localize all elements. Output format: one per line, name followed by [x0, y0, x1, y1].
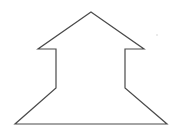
diagram-canvas — [0, 0, 178, 140]
background — [0, 0, 178, 140]
noise-dot — [156, 34, 157, 35]
